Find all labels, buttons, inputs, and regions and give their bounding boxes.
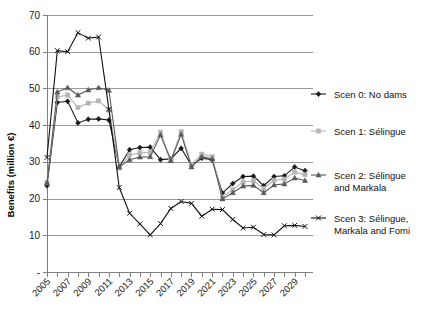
y-tick-label-0: -: [37, 267, 40, 278]
y-tick-label-60: 60: [29, 46, 41, 57]
marker-square: [66, 93, 70, 97]
y-tick-label-40: 40: [29, 120, 41, 131]
y-axis-title: Benefits (million €): [5, 133, 16, 218]
marker-square: [316, 129, 320, 133]
marker-square: [303, 173, 307, 177]
legend-label-2-line2: and Markala: [334, 182, 387, 193]
y-axis-label-text: Benefits (million €): [5, 133, 16, 218]
legend-label-3: Scen 3: Sélingue,: [334, 213, 408, 224]
y-tick-label-50: 50: [29, 83, 41, 94]
marker-square: [76, 105, 80, 109]
marker-square: [293, 170, 297, 174]
marker-square: [86, 101, 90, 105]
y-tick-label-70: 70: [29, 10, 41, 21]
legend-label-0: Scen 0: No dams: [334, 89, 407, 100]
y-tick-label-10: 10: [29, 230, 41, 241]
legend-label-3-line2: Markala and Fomi: [334, 225, 410, 236]
legend-label-1: Scen 1: Sélingue: [334, 126, 406, 137]
chart-figure: -10203040506070 200520072009201120132015…: [0, 0, 426, 315]
benefits-line-chart: -10203040506070 200520072009201120132015…: [0, 0, 426, 315]
marker-square: [282, 177, 286, 181]
y-tick-label-30: 30: [29, 156, 41, 167]
marker-square: [97, 99, 101, 103]
legend-label-2: Scen 2: Sélingue: [334, 170, 406, 181]
y-tick-label-20: 20: [29, 193, 41, 204]
marker-square: [272, 178, 276, 182]
marker-square: [127, 153, 131, 157]
